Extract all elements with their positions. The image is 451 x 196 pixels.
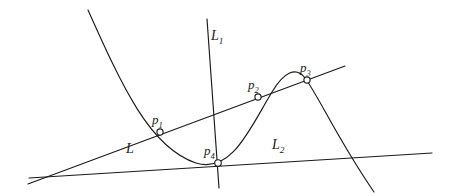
point-label-p1-sub: 1 xyxy=(159,120,163,130)
line-label-L2: L2 xyxy=(272,138,284,155)
line-label-L2-sub: 2 xyxy=(280,145,285,155)
point-label-p3-sub: 3 xyxy=(307,68,311,78)
line-label-L-base: L xyxy=(126,141,134,156)
point-marker-p3 xyxy=(304,77,310,83)
point-label-p4-sub: 4 xyxy=(211,151,215,161)
point-label-p3: p3 xyxy=(300,61,311,77)
cubic-curve xyxy=(88,10,374,192)
point-marker-p4 xyxy=(215,160,222,167)
point-label-p2: p2 xyxy=(248,78,259,94)
line-label-L2-base: L xyxy=(272,137,280,152)
line-L2 xyxy=(29,153,432,178)
line-label-L: L xyxy=(126,142,134,159)
point-marker-p1 xyxy=(157,129,163,135)
line-label-L1-sub: 1 xyxy=(219,36,224,46)
geometry-figure: p1 p2 p3 p4 L L1 L2 xyxy=(0,0,451,196)
line-label-L1: L1 xyxy=(211,29,223,46)
point-label-p4: p4 xyxy=(204,144,215,160)
point-label-p1: p1 xyxy=(152,113,163,129)
point-marker-p2 xyxy=(255,94,261,100)
figure-canvas xyxy=(0,0,451,196)
point-label-p2-sub: 2 xyxy=(255,85,259,95)
line-L xyxy=(28,66,345,184)
line-label-L1-base: L xyxy=(211,28,219,43)
